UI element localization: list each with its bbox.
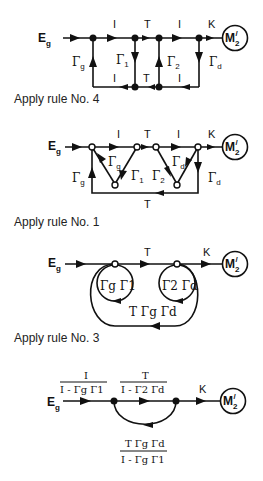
arrow-left-icon	[150, 322, 160, 330]
arrow-icon	[141, 144, 149, 150]
edge-label: T	[144, 198, 151, 210]
caption-rule-3: Apply rule No. 3	[14, 331, 100, 345]
arrow-icon	[164, 166, 171, 177]
node	[153, 144, 159, 150]
arrow-left-icon	[112, 298, 121, 304]
source-label: Eg	[47, 395, 60, 412]
node	[132, 35, 139, 42]
node	[90, 35, 97, 42]
arrow-left-icon	[181, 84, 190, 90]
arrow-down-icon	[195, 52, 203, 63]
branch1-numerator: I	[84, 370, 88, 381]
gamma-g-label: Γg	[72, 55, 85, 71]
arrow-icon	[142, 35, 150, 41]
arrow-up-icon	[155, 56, 163, 67]
arrow-icon	[207, 144, 215, 150]
gamma-1-label: Γ1	[131, 169, 144, 185]
signal-flow-graph-figure: Eg M2/ I T I K I	[0, 0, 263, 481]
gamma-2-label: Γ2	[152, 169, 165, 185]
edge-label: T	[144, 128, 151, 140]
arrow-icon	[119, 170, 127, 180]
source-label: Eg	[48, 139, 61, 156]
caption-rule-4: Apply rule No. 4	[14, 92, 100, 106]
stage-3-diagram: Eg M2/ T K Γg Γ1 Γ2 Γd T Γg Γd Apply rul…	[14, 246, 248, 345]
loop-gain-1: Γg Γ1	[100, 279, 136, 293]
arrow-down-icon	[131, 52, 139, 63]
arrow-icon	[107, 34, 117, 42]
arrow-icon	[80, 397, 91, 405]
arrow-up-icon	[89, 56, 97, 67]
edge-label: T	[144, 246, 151, 258]
edge-label: I	[178, 18, 181, 30]
edge-label: T	[143, 72, 150, 84]
gamma-d-inner-label: Γd	[172, 155, 185, 171]
gamma-g-label: Γg	[72, 171, 85, 187]
feedback-denominator: I - Γg Γ1	[121, 454, 165, 465]
arrow-icon	[201, 260, 211, 268]
feedback-branch	[114, 401, 176, 424]
edge-label: K	[208, 18, 216, 30]
feedback-numerator: T Γg Γd	[125, 438, 165, 449]
arrow-icon	[139, 397, 150, 405]
edge-label: T	[144, 18, 151, 30]
loop-gain-2: Γ2 Γd	[162, 279, 198, 293]
arrow-icon	[140, 260, 150, 268]
arrow-icon	[76, 260, 86, 268]
node	[156, 84, 163, 91]
stage-2-diagram: Eg M2/ I T I K T	[14, 128, 248, 229]
node	[132, 84, 139, 91]
edge-label: K	[208, 128, 216, 140]
stage-1-diagram: Eg M2/ I T I K I	[14, 18, 248, 106]
arrow-left-icon	[143, 422, 153, 428]
gamma-1-label: Γ1	[116, 53, 129, 69]
arrow-left-icon	[155, 190, 164, 196]
gamma-d-label: Γd	[208, 171, 221, 187]
node	[195, 144, 201, 150]
arrow-icon	[206, 35, 214, 41]
arrow-down-icon	[194, 162, 202, 173]
arrow-icon	[171, 143, 181, 151]
edge-label: I	[113, 18, 116, 30]
arrow-left-icon	[119, 84, 128, 90]
arrow-icon	[196, 397, 206, 405]
gamma-2-label: Γ2	[167, 55, 180, 71]
gamma-d-label: Γd	[209, 55, 222, 71]
edge-label: I	[117, 128, 120, 140]
branch2-denominator: I - Γ2 Γd	[121, 384, 165, 395]
arrow-icon	[172, 34, 182, 42]
arrow-icon	[72, 143, 82, 151]
gamma-g-inner-label: Γg	[108, 155, 121, 171]
node	[173, 398, 180, 405]
branch1-denominator: I - Γg Γ1	[60, 384, 104, 395]
arrow-icon	[109, 143, 119, 151]
node	[134, 144, 140, 150]
node	[156, 35, 163, 42]
source-label: Eg	[38, 31, 51, 48]
stage-4-diagram: I I - Γg Γ1 T I - Γ2 Γd Eg M2/ K T Γg Γd…	[47, 370, 246, 465]
node	[196, 35, 203, 42]
feedback-gain: T Γg Γd	[129, 305, 177, 319]
branch2-numerator: T	[142, 370, 149, 381]
node	[111, 398, 118, 405]
source-label: Eg	[48, 256, 61, 273]
arrow-up-icon	[88, 167, 96, 178]
node	[174, 261, 180, 267]
arrow-left-icon	[174, 298, 183, 304]
node	[112, 261, 118, 267]
node	[174, 182, 180, 188]
arrow-icon	[70, 34, 80, 42]
edge-label: I	[113, 72, 116, 84]
caption-rule-1: Apply rule No. 1	[14, 215, 100, 229]
node	[112, 182, 118, 188]
edge-label: K	[203, 246, 211, 258]
arrow-left-icon	[148, 84, 155, 90]
edge-label: K	[199, 383, 207, 395]
edge-label: I	[177, 128, 180, 140]
node	[89, 144, 95, 150]
edge-label: I	[178, 72, 181, 84]
